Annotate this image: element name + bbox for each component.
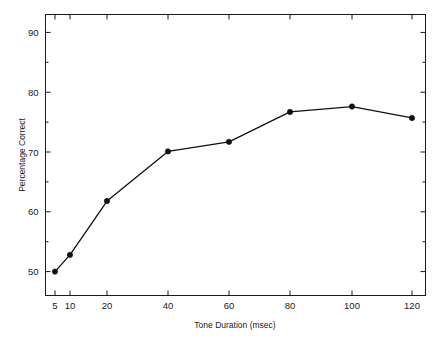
x-tick-label-80: 80: [285, 300, 296, 311]
y-tick-label-70: 70: [28, 147, 39, 158]
y-axis-ticks-right: [421, 32, 426, 271]
data-series-line: [55, 107, 412, 272]
x-tick-label-10: 10: [65, 300, 76, 311]
data-point-5: [52, 269, 57, 274]
x-axis-tick-labels: 51020406080100120: [52, 300, 420, 311]
y-axis-ticks: [46, 32, 51, 271]
data-point-20: [104, 198, 109, 203]
chart-page: 51020406080100120 5060708090 Tone Durati…: [0, 0, 440, 342]
data-point-80: [287, 109, 292, 114]
data-series-markers: [52, 104, 414, 274]
data-point-100: [349, 104, 354, 109]
x-tick-label-120: 120: [404, 300, 420, 311]
data-point-40: [165, 149, 170, 154]
x-tick-label-60: 60: [224, 300, 235, 311]
y-axis-tick-labels: 5060708090: [28, 27, 39, 277]
y-tick-label-60: 60: [28, 206, 39, 217]
line-chart: 51020406080100120 5060708090 Tone Durati…: [0, 0, 440, 342]
x-axis-ticks: [55, 291, 412, 296]
x-axis-title: Tone Duration (msec): [194, 320, 275, 330]
x-tick-label-100: 100: [344, 300, 360, 311]
x-axis-ticks-top: [55, 15, 412, 20]
data-point-120: [409, 115, 414, 120]
plot-frame: [46, 15, 426, 296]
data-point-60: [226, 139, 231, 144]
y-tick-label-90: 90: [28, 27, 39, 38]
y-axis-title: Percentage Correct: [17, 118, 27, 192]
y-tick-label-80: 80: [28, 87, 39, 98]
y-tick-label-50: 50: [28, 266, 39, 277]
x-tick-label-40: 40: [163, 300, 174, 311]
data-point-10: [67, 252, 72, 257]
x-tick-label-5: 5: [52, 300, 57, 311]
x-tick-label-20: 20: [102, 300, 113, 311]
